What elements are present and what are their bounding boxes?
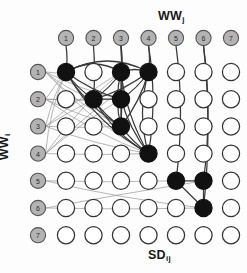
grid-node-open[interactable] [167, 145, 184, 162]
axis-label-bottom-text: SD [148, 248, 166, 262]
column-header-node[interactable] [223, 30, 238, 45]
grid-node-open[interactable] [195, 118, 212, 135]
axis-label-left-subscript: i [3, 133, 12, 135]
grid-node-open[interactable] [195, 227, 212, 244]
grid-node-open[interactable] [222, 63, 239, 80]
grid-node-open[interactable] [140, 227, 157, 244]
grid-node-open[interactable] [57, 199, 74, 216]
grid-node-filled[interactable] [112, 63, 129, 80]
grid-node-open[interactable] [85, 63, 102, 80]
grid-node-open[interactable] [57, 145, 74, 162]
axis-label-top-subscript: j [182, 15, 184, 24]
grid-node-open[interactable] [222, 172, 239, 189]
node-edge [143, 72, 149, 154]
column-header-node[interactable] [168, 30, 183, 45]
grid-node-open[interactable] [195, 91, 212, 108]
grid-node-open[interactable] [112, 199, 129, 216]
grid-node-open[interactable] [85, 118, 102, 135]
grid-node-open[interactable] [222, 199, 239, 216]
row-header-node[interactable] [30, 228, 45, 243]
grid-node-open[interactable] [57, 172, 74, 189]
column-header-node[interactable] [113, 30, 128, 45]
grid-node-filled[interactable] [112, 91, 129, 108]
grid-node-open[interactable] [85, 227, 102, 244]
grid-node-open[interactable] [57, 118, 74, 135]
grid-node-filled[interactable] [140, 63, 157, 80]
grid-node-filled[interactable] [57, 63, 74, 80]
grid-node-open[interactable] [85, 172, 102, 189]
grid-node-filled[interactable] [167, 172, 184, 189]
col-header-layer: 1234567 [58, 30, 238, 45]
column-header-node[interactable] [58, 30, 73, 45]
axis-label-top-text: WW [158, 9, 182, 23]
grid-node-open[interactable] [167, 227, 184, 244]
grid-node-open[interactable] [222, 91, 239, 108]
axis-label-top: WWj [158, 9, 184, 23]
grid-node-open[interactable] [195, 145, 212, 162]
grid-node-filled[interactable] [140, 145, 157, 162]
grid-node-open[interactable] [57, 91, 74, 108]
row-header-node[interactable] [30, 64, 45, 79]
grid-node-open[interactable] [140, 172, 157, 189]
grid-node-open[interactable] [112, 145, 129, 162]
row-header-node[interactable] [30, 92, 45, 107]
column-header-node[interactable] [196, 30, 211, 45]
row-header-layer: 1234567 [30, 64, 45, 242]
grid-node-open[interactable] [167, 118, 184, 135]
row-header-node[interactable] [30, 200, 45, 215]
column-header-node[interactable] [141, 30, 156, 45]
axis-label-bottom-subscript: ij [166, 254, 171, 263]
grid-node-open[interactable] [140, 199, 157, 216]
grid-node-open[interactable] [222, 118, 239, 135]
column-header-node[interactable] [86, 30, 101, 45]
network-diagram-svg: 1234567 1234567 [0, 0, 247, 273]
grid-node-open[interactable] [222, 227, 239, 244]
grid-node-open[interactable] [140, 118, 157, 135]
row-header-node[interactable] [30, 173, 45, 188]
axis-label-left: WWi [0, 134, 11, 160]
axis-label-left-text: WW [0, 136, 11, 160]
grid-node-open[interactable] [222, 145, 239, 162]
grid-node-open[interactable] [85, 145, 102, 162]
grid-node-open[interactable] [167, 199, 184, 216]
grid-node-open[interactable] [167, 91, 184, 108]
row-header-node[interactable] [30, 146, 45, 161]
grid-node-open[interactable] [140, 91, 157, 108]
row-header-node[interactable] [30, 119, 45, 134]
grid-node-open[interactable] [112, 172, 129, 189]
grid-node-filled[interactable] [195, 172, 212, 189]
grid-node-open[interactable] [57, 227, 74, 244]
figure-canvas: 1234567 1234567 WWj WWi SDij [0, 0, 247, 273]
grid-node-open[interactable] [167, 63, 184, 80]
grid-node-filled[interactable] [195, 199, 212, 216]
grid-node-open[interactable] [85, 199, 102, 216]
axis-label-bottom: SDij [148, 248, 171, 262]
grid-node-filled[interactable] [112, 118, 129, 135]
grid-node-open[interactable] [195, 63, 212, 80]
grid-node-filled[interactable] [85, 91, 102, 108]
grid-node-layer [57, 63, 239, 243]
grid-node-open[interactable] [112, 227, 129, 244]
